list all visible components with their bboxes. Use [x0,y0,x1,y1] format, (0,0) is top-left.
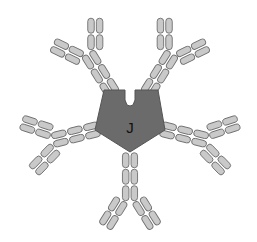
domain-segment [157,35,164,50]
domain-segment [191,138,207,148]
antibody-upper-left [45,11,140,110]
domain-segment [122,169,129,184]
domain-segment [131,186,138,201]
domain-segment [166,35,173,50]
domain-segment [67,125,83,135]
domain-segment [175,134,191,144]
domain-segment [88,35,95,50]
domain-segment [166,18,173,33]
diagram-canvas: J [0,0,257,242]
antibody-left [16,98,107,178]
antibody-right [153,98,244,178]
domain-segment [122,153,129,168]
domain-segment [122,186,129,201]
domain-segment [131,169,138,184]
domain-segment [177,125,193,135]
domain-segment [88,18,95,33]
antibody-bottom [99,153,162,231]
domain-segment [96,18,103,33]
domain-segment [131,153,138,168]
domain-segment [51,129,67,139]
domain-segment [157,18,164,33]
j-chain-label: J [126,119,134,136]
igm-pentamer-diagram: J [0,0,257,242]
domain-segment [193,129,209,139]
domain-segment [69,134,85,144]
domain-segment [96,35,103,50]
domain-segment [53,138,69,148]
antibody-upper-right [120,11,215,110]
